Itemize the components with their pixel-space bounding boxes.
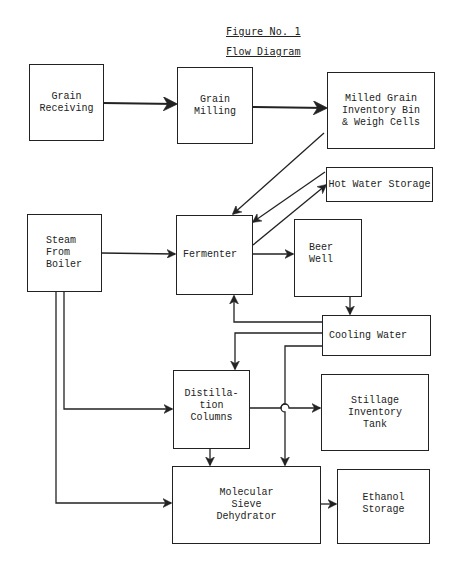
node-beer-well: Beer Well bbox=[294, 219, 362, 297]
arrow-distillation-to-stillage bbox=[249, 404, 320, 408]
arrow-bin-to-fermenter bbox=[233, 133, 324, 214]
node-label: Hot Water Storage bbox=[328, 179, 430, 191]
node-label: Molecular Sieve Dehydrator bbox=[216, 487, 276, 523]
arrow-milling-to-bin bbox=[252, 107, 326, 108]
node-label: Cooling Water bbox=[329, 330, 407, 342]
node-label: Grain Milling bbox=[194, 94, 236, 118]
arrow-cooling-to-distillation bbox=[235, 333, 322, 369]
node-steam-from-boiler: Steam From Boiler bbox=[27, 214, 102, 292]
node-hot-water-storage: Hot Water Storage bbox=[326, 167, 433, 202]
node-label: Milled Grain Inventory Bin & Weigh Cells bbox=[342, 93, 420, 129]
arrow-steam-to-distillation bbox=[64, 291, 172, 409]
node-label: Steam From Boiler bbox=[46, 235, 82, 271]
arrow-steam-to-fermenter bbox=[101, 253, 175, 254]
node-grain-receiving: Grain Receiving bbox=[29, 64, 104, 141]
arrow-cooling-to-fermenter bbox=[234, 296, 322, 322]
node-label: Distilla- tion Columns bbox=[184, 388, 238, 424]
node-distillation-columns: Distilla- tion Columns bbox=[173, 370, 250, 449]
node-grain-milling: Grain Milling bbox=[177, 67, 253, 144]
node-milled-grain-bin: Milled Grain Inventory Bin & Weigh Cells bbox=[327, 72, 435, 149]
node-ethanol-storage: Ethanol Storage bbox=[337, 469, 430, 544]
node-cooling-water: Cooling Water bbox=[322, 315, 431, 356]
node-fermenter: Fermenter bbox=[176, 215, 253, 295]
node-label: Ethanol Storage bbox=[362, 492, 404, 516]
node-label: Beer Well bbox=[309, 242, 333, 266]
node-label: Stillage Inventory Tank bbox=[348, 395, 402, 431]
arrow-hotwater-to-fermenter bbox=[253, 172, 325, 222]
arrow-steam-to-dehydrator bbox=[56, 291, 171, 503]
node-label: Grain Receiving bbox=[39, 91, 93, 115]
arrow-receiving-to-milling bbox=[103, 103, 176, 104]
node-molecular-sieve-dehydrator: Molecular Sieve Dehydrator bbox=[172, 466, 321, 544]
node-stillage-inventory-tank: Stillage Inventory Tank bbox=[321, 374, 429, 451]
arrow-cooling-to-dehydrator bbox=[281, 346, 322, 465]
node-label: Fermenter bbox=[183, 249, 237, 261]
